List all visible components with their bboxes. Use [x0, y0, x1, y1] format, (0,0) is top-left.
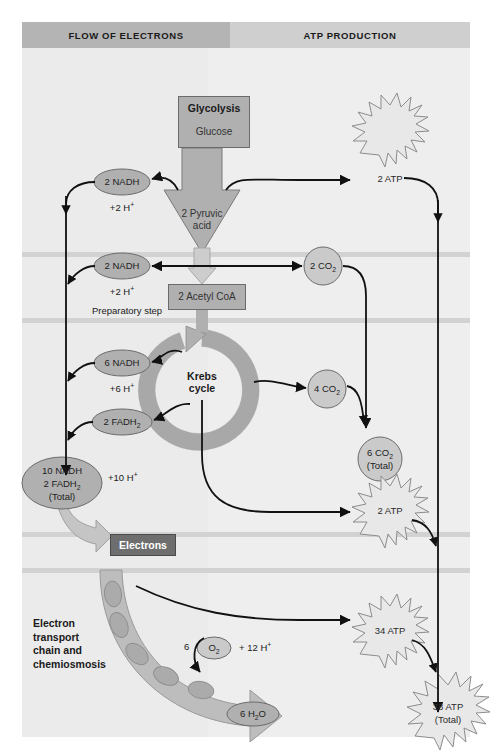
- cellular-respiration-diagram: FLOW OF ELECTRONS ATP PRODUCTION: [0, 0, 493, 752]
- pyruvic-acid-label-line1: 2 Pyruvic: [181, 208, 222, 219]
- arrow-fadh2-to-trunk: [68, 422, 93, 440]
- oxygen-protons: + 12 H+: [239, 641, 271, 653]
- glycolysis-arrow-shape: [164, 148, 240, 253]
- pyruvic-acid-label-line2: acid: [193, 220, 211, 231]
- atp-total-line2: (Total): [435, 715, 461, 726]
- arrow-etc-atp-to-collector: [412, 640, 436, 672]
- krebs-fadh2-label: 2 FADH2: [103, 416, 140, 429]
- preparatory-step-label: Preparatory step: [92, 305, 162, 316]
- co2-total-line1: 6 CO2: [367, 447, 393, 460]
- etc-label-line2: transport: [33, 631, 79, 643]
- oxygen-label: O2: [208, 642, 219, 655]
- glycolysis-nadh-label: 2 NADH: [105, 176, 140, 187]
- prep-nadh-label: 2 NADH: [105, 260, 140, 271]
- acetyl-coa-label: 2 Acetyl CoA: [178, 291, 235, 302]
- carrier-total-line1: 10 NADH: [42, 465, 82, 476]
- arrow-glycolysis-to-nadh: [152, 178, 178, 190]
- krebs-co2-label: 4 CO2: [314, 383, 340, 396]
- glucose-label: Glucose: [196, 126, 233, 137]
- atp-total-line1: 38 ATP: [433, 702, 463, 713]
- arrow-krebs-atp-to-collector: [412, 520, 436, 546]
- etc-atp-label: 34 ATP: [375, 626, 405, 637]
- krebs-cycle-label: Krebs cycle: [167, 370, 237, 394]
- co2-total-line2: (Total): [367, 460, 393, 471]
- etc-label-line3: chain and: [33, 644, 82, 656]
- carrier-total-protons: +10 H+: [108, 471, 138, 483]
- krebs-cycle-label-line2: cycle: [189, 382, 215, 394]
- etc-label-line4: chemiosmosis: [33, 658, 106, 670]
- glycolysis-title: Glycolysis: [188, 102, 241, 114]
- etc-label-line1: Electron: [33, 617, 75, 629]
- glycolysis-nadh-protons: +2 H+: [110, 201, 134, 213]
- electron-transport-chain-label: Electron transport chain and chemiosmosi…: [33, 617, 106, 671]
- carrier-total-line2: 2 FADH2: [43, 478, 80, 491]
- carrier-total-line3: (Total): [49, 491, 75, 502]
- prep-nadh-protons: +2 H+: [110, 285, 134, 297]
- electrons-box[interactable]: Electrons: [110, 534, 176, 556]
- arrow-krebs-to-co2: [254, 381, 306, 388]
- glycolysis-atp-label: 2 ATP: [377, 174, 402, 185]
- oxygen-count: 6: [184, 641, 189, 652]
- arrow-krebs-to-atp: [202, 400, 350, 512]
- arrow-krebs-nadh-to-trunk: [68, 363, 95, 381]
- arrow-etc-to-atp: [136, 586, 350, 620]
- electrons-box-label: Electrons: [119, 539, 167, 551]
- arrow-glycolysis-to-atp: [226, 179, 350, 190]
- arrow-nadh-trunk: [66, 182, 95, 475]
- krebs-cycle-label-line1: Krebs: [187, 370, 217, 382]
- prep-co2-label: 2 CO2: [310, 260, 336, 273]
- krebs-atp-label: 2 ATP: [377, 506, 402, 517]
- arrow-prep-nadh-to-trunk: [68, 266, 95, 284]
- arrow-co2-krebs-to-total: [347, 386, 364, 424]
- krebs-nadh-label: 6 NADH: [105, 357, 140, 368]
- arrow-co2-prep-to-total: [343, 266, 366, 428]
- water-label: 6 H2O: [240, 708, 266, 721]
- krebs-nadh-protons: +6 H+: [110, 382, 134, 394]
- acetyl-to-krebs-stem: [196, 308, 208, 332]
- glycolysis-atp-burst: [352, 93, 429, 167]
